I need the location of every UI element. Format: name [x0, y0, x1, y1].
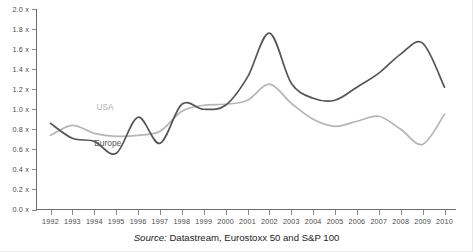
- series-line-usa: [51, 84, 445, 144]
- x-tick-label: 2006: [349, 217, 366, 226]
- y-tick-label: 1.6 x: [12, 45, 29, 54]
- y-axis-tick-labels: 2.0 x1.8 x1.6 x1.4 x1.2 x1.0 x0.8 x0.6 x…: [12, 5, 29, 215]
- line-chart-canvas: 2.0 x1.8 x1.6 x1.4 x1.2 x1.0 x0.8 x0.6 x…: [0, 0, 473, 252]
- x-tick-label: 1998: [173, 217, 190, 226]
- y-tick-label: 1.4 x: [12, 65, 29, 74]
- x-tick-label: 2002: [261, 217, 278, 226]
- x-tick-label: 1996: [130, 217, 147, 226]
- y-tick-label: 1.2 x: [12, 85, 29, 94]
- series-annotations: USAEurope: [94, 102, 121, 148]
- x-tick-label: 2001: [239, 217, 256, 226]
- x-axis-tick-marks: [52, 210, 446, 215]
- x-tick-label: 1999: [195, 217, 212, 226]
- x-tick-label: 2000: [217, 217, 234, 226]
- x-tick-label: 1993: [64, 217, 81, 226]
- x-tick-label: 2007: [370, 217, 387, 226]
- x-tick-label: 2008: [392, 217, 409, 226]
- x-tick-label: 1997: [152, 217, 169, 226]
- x-axis-tick-labels: 1992199319941995199619971998199920002001…: [42, 217, 453, 226]
- caption-source-text: Datastream, Eurostoxx 50 and S&P 100: [167, 232, 340, 243]
- y-tick-label: 0.0 x: [12, 205, 29, 214]
- x-tick-label: 1995: [108, 217, 125, 226]
- y-tick-label: 2.0 x: [12, 5, 29, 14]
- caption-source-word: Source:: [134, 232, 167, 243]
- x-tick-label: 2004: [305, 217, 322, 226]
- chart-figure: 2.0 x1.8 x1.6 x1.4 x1.2 x1.0 x0.8 x0.6 x…: [0, 0, 473, 252]
- y-axis-tick-marks: [32, 10, 37, 211]
- y-tick-label: 1.0 x: [12, 105, 29, 114]
- figure-caption: Source: Datastream, Eurostoxx 50 and S&P…: [0, 232, 473, 243]
- x-tick-label: 2009: [414, 217, 431, 226]
- y-tick-label: 0.6 x: [12, 145, 29, 154]
- x-tick-label: 2010: [436, 217, 453, 226]
- y-tick-label: 0.4 x: [12, 165, 29, 174]
- y-tick-label: 0.2 x: [12, 185, 29, 194]
- x-tick-label: 1992: [42, 217, 59, 226]
- series-label-europe: Europe: [94, 138, 121, 148]
- y-tick-label: 1.8 x: [12, 25, 29, 34]
- x-tick-label: 2005: [327, 217, 344, 226]
- y-tick-label: 0.8 x: [12, 125, 29, 134]
- series-label-usa: USA: [96, 102, 114, 112]
- x-tick-label: 1994: [86, 217, 103, 226]
- x-tick-label: 2003: [283, 217, 300, 226]
